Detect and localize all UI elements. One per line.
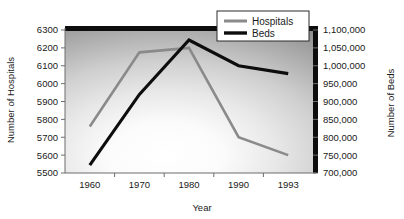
left-tick-label: 6200: [37, 42, 58, 53]
right-tick-label: 1,100,000: [323, 24, 365, 35]
x-tick-label: 1970: [129, 179, 150, 190]
right-axis-title: Number of Beds: [385, 68, 396, 137]
x-tick-label: 1980: [178, 179, 199, 190]
x-axis-title: Year: [192, 202, 211, 213]
left-tick-label: 6300: [37, 24, 58, 35]
x-tick-label: 1993: [278, 179, 299, 190]
legend-label-hospitals: Hospitals: [252, 16, 293, 27]
right-tick-label: 750,000: [323, 150, 357, 161]
x-tick-label: 1990: [228, 179, 249, 190]
x-tick-label: 1960: [79, 179, 100, 190]
line-chart: 550056005700580059006000610062006300 700…: [0, 0, 404, 219]
left-tick-label: 5800: [37, 114, 58, 125]
right-tick-label: 1,000,000: [323, 60, 365, 71]
left-axis-tick-labels: 550056005700580059006000610062006300: [37, 24, 58, 178]
right-tick-label: 800,000: [323, 132, 357, 143]
left-tick-label: 6100: [37, 60, 58, 71]
left-tick-label: 6000: [37, 78, 58, 89]
left-axis-title: Number of Hospitals: [5, 57, 16, 143]
left-tick-label: 5600: [37, 150, 58, 161]
left-tick-label: 5900: [37, 96, 58, 107]
left-tick-label: 5500: [37, 167, 58, 178]
right-tick-label: 850,000: [323, 114, 357, 125]
legend-label-beds: Beds: [252, 28, 275, 39]
right-tick-label: 900,000: [323, 96, 357, 107]
right-tick-label: 950,000: [323, 78, 357, 89]
right-tick-label: 1,050,000: [323, 42, 365, 53]
legend: Hospitals Beds: [217, 11, 309, 41]
right-tick-label: 700,000: [323, 167, 357, 178]
left-tick-label: 5700: [37, 132, 58, 143]
chart-container: 550056005700580059006000610062006300 700…: [0, 0, 404, 219]
